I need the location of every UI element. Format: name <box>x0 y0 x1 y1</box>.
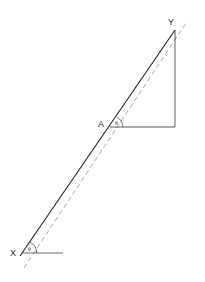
label-a: A <box>98 120 104 129</box>
theta-label-a: θ <box>115 120 118 126</box>
dashed-reference-line <box>24 23 186 268</box>
label-x: X <box>10 249 16 258</box>
diagram-canvas: Y A X θ θ <box>0 0 205 282</box>
label-y: Y <box>168 18 174 27</box>
diagram-svg <box>0 0 205 282</box>
theta-label-x: θ <box>28 246 31 252</box>
main-line-xy <box>20 30 175 256</box>
angle-arc-x <box>30 242 37 253</box>
